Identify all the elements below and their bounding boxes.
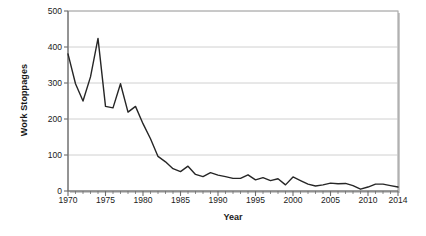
plot-background	[68, 11, 398, 191]
work-stoppages-chart: Work Stoppages 0100200300400500 19701975…	[0, 0, 426, 236]
plot-area	[0, 0, 426, 236]
